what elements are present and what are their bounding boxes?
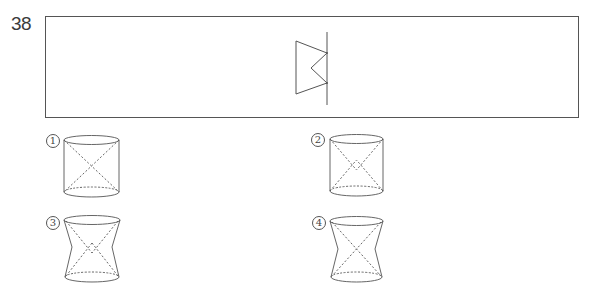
option-2-label[interactable]: 2 [311, 133, 325, 147]
option-1-label[interactable]: 1 [46, 134, 60, 148]
option-3-solid [64, 216, 120, 282]
option-4-label[interactable]: 4 [312, 216, 326, 230]
option-3-label[interactable]: 3 [46, 216, 60, 230]
plane-figure [296, 41, 327, 94]
option-1-solid [64, 136, 119, 197]
rotation-figure [0, 0, 592, 304]
option-2-solid [330, 135, 383, 197]
option-4-solid [330, 217, 383, 283]
